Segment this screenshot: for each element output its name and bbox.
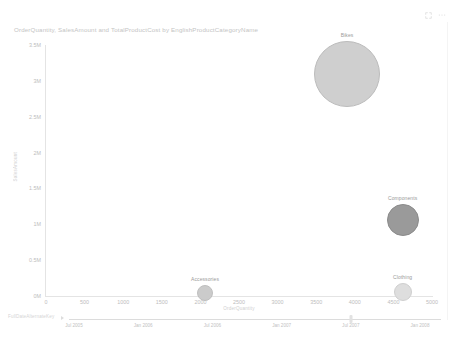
- x-tick-label: 1500: [156, 299, 168, 305]
- y-tick-label: 1.5M: [29, 185, 41, 191]
- y-tick-label: 2.5M: [29, 114, 41, 120]
- bubble-label-bikes: Bikes: [341, 32, 354, 38]
- y-tick-label: 3.5M: [29, 42, 41, 48]
- bubble-label-clothing: Clothing: [393, 274, 412, 280]
- y-tick-label: 2M: [34, 150, 42, 156]
- timeline-tick-labels: Jul 2005Jan 2006Jul 2006Jan 2007Jul 2007…: [0, 323, 452, 333]
- x-tick-label: 3500: [310, 299, 322, 305]
- plot-area[interactable]: BikesComponentsAccessoriesClothing: [46, 45, 432, 296]
- bubble-label-components: Components: [388, 195, 417, 201]
- timeline-tick-label: Jul 2005: [65, 323, 82, 328]
- bubble-bikes[interactable]: [314, 41, 380, 107]
- timeline-tick-label: Jan 2007: [272, 323, 291, 328]
- x-tick-label: 2500: [233, 299, 245, 305]
- x-tick-label: 3000: [272, 299, 284, 305]
- bubble-accessories[interactable]: [197, 285, 213, 301]
- x-tick-label: 500: [80, 299, 89, 305]
- scatter-chart[interactable]: 0M0.5M1M1.5M2M2.5M3M3.5M 050010001500200…: [0, 0, 452, 348]
- bubble-components[interactable]: [387, 204, 419, 236]
- timeline-slider-track[interactable]: [69, 319, 441, 320]
- visual-right-edge: [447, 22, 448, 320]
- y-axis-title: SalesAmount: [13, 152, 18, 182]
- x-tick-label: 4000: [349, 299, 361, 305]
- timeline-tick-label: Jul 2007: [342, 323, 359, 328]
- x-tick-label: 0: [45, 299, 48, 305]
- x-tick-label: 5000: [426, 299, 438, 305]
- y-tick-label: 3M: [34, 78, 42, 84]
- timeline-tick-label: Jan 2008: [411, 323, 430, 328]
- y-tick-label: 1M: [34, 221, 42, 227]
- x-tick-label: 1000: [117, 299, 129, 305]
- bubble-label-accessories: Accessories: [191, 276, 219, 282]
- x-axis-title: OrderQuantity: [223, 306, 254, 311]
- x-axis-line: [45, 296, 433, 297]
- timeline-tick-label: Jan 2006: [134, 323, 153, 328]
- timeline-field-label: FullDateAlternateKey: [8, 314, 54, 319]
- timeline-slider-handle[interactable]: [349, 315, 352, 323]
- timeline-tick-label: Jul 2006: [204, 323, 221, 328]
- bubble-clothing[interactable]: [394, 283, 412, 301]
- timeline-expand-icon[interactable]: [61, 316, 64, 320]
- y-tick-label: 0.5M: [29, 257, 41, 263]
